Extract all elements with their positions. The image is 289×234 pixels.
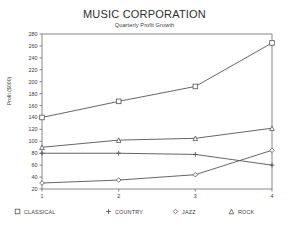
legend-label: JAZZ xyxy=(182,209,196,215)
chart-legend: CLASSICALCOUNTRYJAZZROCK xyxy=(0,206,289,226)
chart-container: MUSIC CORPORATION Quarterly Profit Growt… xyxy=(0,0,289,234)
triangle-marker-icon xyxy=(228,208,235,215)
plot-area: 20406080100120140160180200220240260280 1… xyxy=(0,0,289,234)
svg-text:200: 200 xyxy=(29,79,38,85)
svg-text:140: 140 xyxy=(29,114,38,120)
x-axis-ticks: 1234 xyxy=(41,189,274,199)
diamond-marker-icon xyxy=(172,208,179,215)
legend-item-country[interactable]: COUNTRY xyxy=(105,208,143,215)
svg-text:260: 260 xyxy=(29,43,38,49)
plus-marker-icon xyxy=(105,208,112,215)
y-axis-ticks: 20406080100120140160180200220240260280 xyxy=(29,31,43,192)
svg-text:220: 220 xyxy=(29,67,38,73)
svg-text:3: 3 xyxy=(194,193,197,199)
svg-text:160: 160 xyxy=(29,103,38,109)
svg-text:100: 100 xyxy=(29,138,38,144)
svg-text:240: 240 xyxy=(29,55,38,61)
svg-text:60: 60 xyxy=(32,162,38,168)
svg-text:180: 180 xyxy=(29,91,38,97)
svg-text:4: 4 xyxy=(271,193,274,199)
legend-label: ROCK xyxy=(238,209,254,215)
svg-text:80: 80 xyxy=(32,150,38,156)
legend-item-rock[interactable]: ROCK xyxy=(228,208,254,215)
series-classical xyxy=(40,41,275,120)
square-marker-icon xyxy=(14,208,21,215)
svg-text:280: 280 xyxy=(29,31,38,37)
svg-text:20: 20 xyxy=(32,186,38,192)
legend-label: COUNTRY xyxy=(115,209,143,215)
legend-label: CLASSICAL xyxy=(24,209,55,215)
svg-text:1: 1 xyxy=(41,193,44,199)
legend-item-jazz[interactable]: JAZZ xyxy=(172,208,196,215)
svg-text:2: 2 xyxy=(117,193,120,199)
legend-item-classical[interactable]: CLASSICAL xyxy=(14,208,55,215)
series-rock xyxy=(40,126,275,150)
svg-text:40: 40 xyxy=(32,174,38,180)
axis-lines xyxy=(42,34,272,189)
series-country xyxy=(40,151,275,168)
svg-text:120: 120 xyxy=(29,126,38,132)
data-series-layer xyxy=(40,41,275,186)
